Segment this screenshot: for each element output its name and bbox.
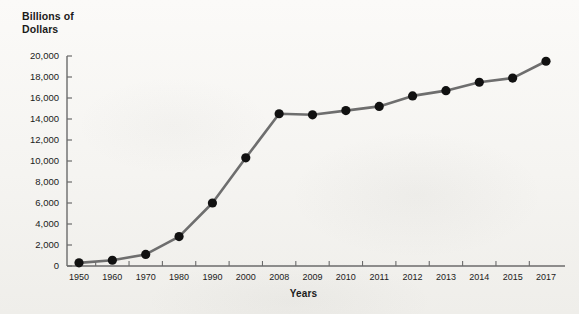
y-tick-label: 18,000 xyxy=(30,71,59,82)
data-point-marker xyxy=(275,109,284,118)
x-tick-label: 1980 xyxy=(169,272,189,282)
x-tick-label: 1950 xyxy=(69,272,89,282)
x-tick-label: 2000 xyxy=(236,272,256,282)
data-series-line xyxy=(79,61,546,263)
x-tick-label: 2008 xyxy=(269,272,289,282)
data-point-marker xyxy=(208,198,217,207)
x-tick-label: 1990 xyxy=(202,272,222,282)
y-tick-label: 20,000 xyxy=(30,50,59,61)
y-tick-label: 4,000 xyxy=(35,218,59,229)
y-tick-label: 8,000 xyxy=(35,176,59,187)
x-tick-label: 2011 xyxy=(370,272,389,282)
y-tick-label: 14,000 xyxy=(30,113,59,124)
x-axis: 1950196019701980199020002008200920102011… xyxy=(67,261,565,282)
chart-plot-area: 02,0004,0006,0008,00010,00012,00014,0001… xyxy=(0,0,579,314)
y-tick-label: 10,000 xyxy=(30,155,59,166)
y-tick-label: 2,000 xyxy=(35,239,59,250)
data-point-marker xyxy=(508,73,517,82)
x-tick-label: 2013 xyxy=(436,272,456,282)
data-point-markers xyxy=(74,57,550,268)
data-point-marker xyxy=(141,250,150,259)
x-axis-title: Years xyxy=(0,288,579,299)
data-point-marker xyxy=(475,78,484,87)
y-tick-label: 6,000 xyxy=(35,197,59,208)
x-tick-label: 2009 xyxy=(302,272,322,282)
y-axis: 02,0004,0006,0008,00010,00012,00014,0001… xyxy=(30,50,72,271)
data-point-marker xyxy=(375,102,384,111)
y-tick-label: 12,000 xyxy=(30,134,59,145)
x-tick-label: 2017 xyxy=(536,272,556,282)
chart-svg: 02,0004,0006,0008,00010,00012,00014,0001… xyxy=(0,0,579,314)
x-tick-label: 2012 xyxy=(403,272,423,282)
data-point-marker xyxy=(241,153,250,162)
x-axis-title-label: Years xyxy=(262,288,318,299)
y-tick-label: 16,000 xyxy=(30,92,59,103)
data-point-marker xyxy=(541,57,550,66)
x-tick-label: 2014 xyxy=(469,272,489,282)
data-point-marker xyxy=(108,256,117,265)
data-point-marker xyxy=(308,110,317,119)
data-point-marker xyxy=(174,232,183,241)
x-tick-label: 2015 xyxy=(503,272,523,282)
data-point-marker xyxy=(408,91,417,100)
data-point-marker xyxy=(441,86,450,95)
chart-screenshot: Billions of Dollars 02,0004,0006,0008,00… xyxy=(0,0,579,314)
y-tick-label: 0 xyxy=(54,260,59,271)
data-point-marker xyxy=(341,106,350,115)
x-tick-label: 1970 xyxy=(136,272,156,282)
x-tick-label: 1960 xyxy=(102,272,122,282)
x-tick-label: 2010 xyxy=(336,272,356,282)
data-point-marker xyxy=(74,258,83,267)
